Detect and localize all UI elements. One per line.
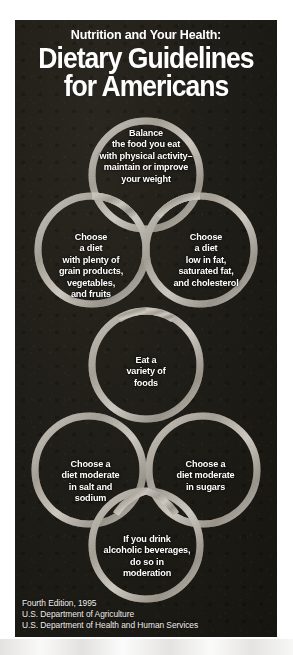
footer-edition: Fourth Edition, 1995 <box>22 598 198 609</box>
guideline-line: saturated fat, <box>144 265 268 276</box>
guideline-line: with plenty of <box>29 254 153 265</box>
guideline-line: foods <box>94 377 199 388</box>
guideline-line: Balance <box>70 127 222 138</box>
guideline-line: moderation <box>75 567 219 578</box>
guideline-line: the food you eat <box>70 138 222 149</box>
guideline-sugars: Choose a diet moderate in sugars <box>146 458 265 492</box>
guideline-line: Eat a <box>94 354 199 365</box>
guideline-line: sodium <box>31 492 150 503</box>
poster-panel: Nutrition and Your Health: Dietary Guide… <box>15 20 277 637</box>
weave-arc-4 <box>146 311 173 319</box>
guideline-line: Choose <box>29 231 153 242</box>
guideline-line: a diet <box>29 242 153 253</box>
guideline-low-fat: Choose a diet low in fat, saturated fat,… <box>144 231 268 288</box>
guideline-line: Choose <box>144 231 268 242</box>
guideline-line: and cholesterol <box>144 277 268 288</box>
guideline-line: and fruits <box>29 288 153 299</box>
footer-agency-hhs: U.S. Department of Health and Human Serv… <box>22 620 198 631</box>
guideline-line: maintain or improve <box>70 161 222 172</box>
guideline-line: diet moderate <box>146 469 265 480</box>
poster-title: Dietary Guidelines for Americans <box>28 44 264 100</box>
poster-kicker: Nutrition and Your Health: <box>24 27 268 42</box>
guideline-line: with physical activity– <box>70 150 222 161</box>
guideline-balance: Balance the food you eat with physical a… <box>70 127 222 184</box>
guideline-line: a diet <box>144 242 268 253</box>
poster-title-block: Nutrition and Your Health: Dietary Guide… <box>15 27 277 100</box>
guideline-line: vegetables, <box>29 277 153 288</box>
guideline-line: alcoholic beverages, <box>75 544 219 555</box>
scan-edge-artifact <box>0 639 293 655</box>
guideline-line: your weight <box>70 173 222 184</box>
footer-agency-usda: U.S. Department of Agriculture <box>22 609 198 620</box>
guideline-line: do so in <box>75 556 219 567</box>
guideline-line: If you drink <box>75 533 219 544</box>
guideline-line: grain products, <box>29 265 153 276</box>
weave-arc-3 <box>119 311 146 319</box>
guideline-line: variety of <box>94 365 199 376</box>
guideline-alcohol: If you drink alcoholic beverages, do so … <box>75 533 219 579</box>
guideline-line: low in fat, <box>144 254 268 265</box>
guideline-salt-sodium: Choose a diet moderate in salt and sodiu… <box>31 458 150 504</box>
poster-title-line2: for Americans <box>28 72 264 100</box>
guideline-line: in sugars <box>146 481 265 492</box>
guideline-variety: Eat a variety of foods <box>94 354 199 388</box>
poster-footer: Fourth Edition, 1995 U.S. Department of … <box>22 598 198 631</box>
guideline-line: Choose a <box>31 458 150 469</box>
guideline-line: Choose a <box>146 458 265 469</box>
guideline-line: diet moderate <box>31 469 150 480</box>
scanned-page: Nutrition and Your Health: Dietary Guide… <box>0 0 293 655</box>
guideline-line: in salt and <box>31 481 150 492</box>
guideline-grain-products: Choose a diet with plenty of grain produ… <box>29 231 153 299</box>
